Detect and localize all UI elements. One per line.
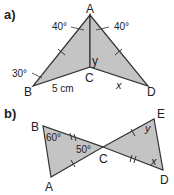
side-BC-length: 5 cm: [52, 83, 74, 94]
vertex-E: E: [157, 107, 165, 121]
vertex-C: C: [85, 71, 94, 85]
unknown-x: x: [150, 155, 157, 167]
unknown-x: x: [115, 79, 122, 91]
vertex-D: D: [147, 85, 156, 99]
angle-B: 60°: [46, 132, 61, 143]
vertex-C: C: [99, 152, 108, 166]
diagram-a: a) A B C D 40° 40° 30° 5 cm y x: [4, 2, 156, 99]
angle-A-right: 40°: [114, 21, 129, 32]
vertex-B: B: [24, 85, 32, 99]
angle-A-left: 40°: [52, 21, 67, 32]
unknown-y: y: [92, 54, 98, 68]
angle-marker-B: [32, 73, 42, 78]
part-label-a: a): [4, 7, 16, 22]
vertex-A: A: [86, 2, 94, 16]
part-label-b: b): [4, 106, 16, 121]
vertex-A: A: [45, 180, 53, 194]
diagram-b: b) B A C E D 60° 50° y x: [4, 106, 169, 194]
vertex-B: B: [31, 120, 39, 134]
angle-B: 30°: [12, 68, 27, 79]
geometry-figure: a) A B C D 40° 40° 30° 5 cm y x b) B A C…: [0, 0, 174, 195]
angle-C: 50°: [76, 144, 91, 155]
vertex-D: D: [160, 173, 169, 187]
